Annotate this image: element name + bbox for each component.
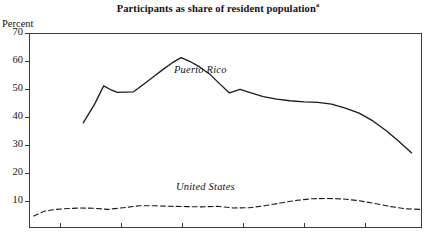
y-tick-label: 20 xyxy=(0,167,23,177)
series-label-united-states: United States xyxy=(176,181,235,192)
data-series-group xyxy=(34,58,420,216)
y-tick-label: 60 xyxy=(0,55,23,65)
y-tick-label: 10 xyxy=(0,195,23,205)
series-line-puerto-rico xyxy=(83,58,411,153)
series-line-united-states xyxy=(34,198,420,216)
y-tick-label: 40 xyxy=(0,111,23,121)
series-label-puerto-rico: Puerto Rico xyxy=(174,64,227,75)
y-tick-label: 30 xyxy=(0,139,23,149)
y-tick-label: 70 xyxy=(0,27,23,37)
y-axis-ticks xyxy=(25,34,29,202)
chart-figure: Participants as share of resident popula… xyxy=(0,0,436,238)
plot-area xyxy=(0,0,436,238)
axes-frame xyxy=(30,34,422,228)
y-tick-label: 50 xyxy=(0,83,23,93)
